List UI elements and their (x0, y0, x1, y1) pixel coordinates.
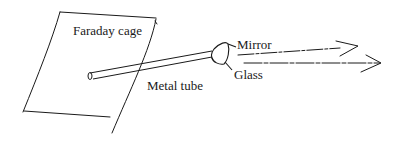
mirror-glass-shape (212, 43, 236, 70)
glass-label: Glass (234, 67, 263, 83)
metal-tube-label: Metal tube (147, 78, 203, 94)
diagram-canvas (0, 0, 401, 143)
mirror-label: Mirror (237, 37, 272, 53)
metal-tube-shape (88, 51, 212, 80)
faraday-cage-label: Faraday cage (73, 23, 142, 39)
